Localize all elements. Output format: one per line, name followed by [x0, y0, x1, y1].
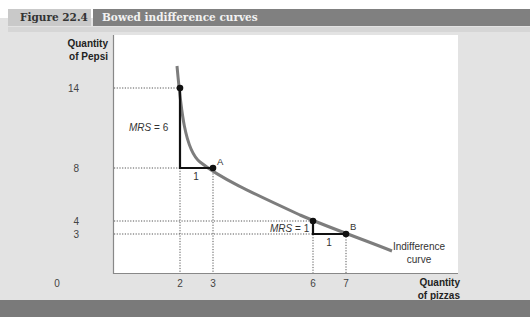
mrs6-suffix: = 6 — [151, 122, 168, 133]
run-b-label: 1 — [326, 237, 332, 248]
x-axis-title-1: Quantity — [419, 277, 460, 288]
point-a-label: A — [217, 156, 224, 167]
x-tick-7: 7 — [343, 278, 349, 289]
x-tick-6: 6 — [310, 278, 316, 289]
y-axis-title-1: Quantity — [67, 38, 108, 49]
point-a — [210, 165, 217, 172]
y-tick-14: 14 — [68, 83, 80, 94]
mrs6-prefix: MRS — [129, 122, 152, 133]
origin-label: 0 — [54, 278, 60, 289]
y-axis-title-2: of Pepsi — [69, 51, 108, 62]
plot-area — [113, 35, 458, 274]
y-tick-3: 3 — [73, 229, 79, 240]
point-b-label: B — [350, 221, 356, 232]
run-a-label: 1 — [193, 171, 199, 182]
curve-label-2: curve — [407, 254, 432, 265]
chart: Quantity of Pepsi Quantity of pizzas 14 … — [0, 0, 530, 317]
point-4 — [310, 218, 317, 225]
x-tick-3: 3 — [210, 278, 216, 289]
y-tick-8: 8 — [73, 163, 79, 174]
x-tick-2: 2 — [177, 278, 183, 289]
point-b — [343, 231, 350, 238]
mrs1-label: MRS = 1 — [270, 223, 310, 234]
point-14 — [177, 85, 184, 92]
mrs1-prefix: MRS — [270, 223, 293, 234]
mrs1-suffix: = 1 — [292, 223, 309, 234]
curve-label-1: Indifference — [393, 241, 446, 252]
footer-bar — [0, 300, 530, 317]
mrs6-label: MRS = 6 — [129, 122, 169, 133]
y-tick-4: 4 — [73, 216, 79, 227]
